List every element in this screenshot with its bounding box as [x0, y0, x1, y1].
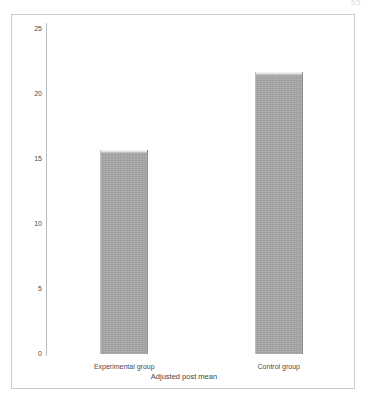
category-label-1: Experimental group [94, 362, 155, 371]
y-tick-label: 5 [20, 285, 42, 293]
page-number-artifact: 55 [351, 0, 361, 5]
y-tick-label: 20 [20, 90, 42, 98]
bar-texture [101, 153, 147, 354]
y-tick-label: 10 [20, 220, 42, 228]
category-label-2: Control group [258, 362, 300, 371]
y-tick-label: 0 [20, 350, 42, 358]
bar-2 [255, 72, 303, 354]
y-tick-label: 25 [20, 25, 42, 33]
plot-area: 0510152025 Experimental groupControl gro… [12, 15, 356, 390]
bar-1 [100, 150, 148, 354]
y-tick-label: 15 [20, 155, 42, 163]
y-axis-line [46, 23, 47, 356]
bar-texture [256, 75, 302, 354]
x-axis-title: Adjusted post mean [12, 372, 356, 382]
chart-figure-frame: 0510152025 Experimental groupControl gro… [11, 14, 355, 389]
